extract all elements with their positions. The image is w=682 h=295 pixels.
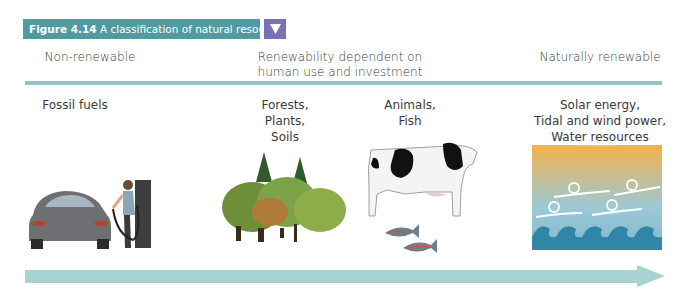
trees-illustration (222, 152, 347, 244)
category-non-renewable: Non-renewable (20, 50, 160, 65)
category-naturally-renewable: Naturally renewable (530, 50, 670, 65)
divider-line (25, 81, 662, 85)
cow-and-fish-illustration (365, 138, 483, 263)
sun-wind-waves-illustration (532, 145, 662, 250)
triangle-down-icon (270, 24, 281, 34)
car-refuelling-illustration (25, 175, 160, 255)
figure-number: Figure 4.14 (29, 23, 97, 35)
figure-dropdown-button[interactable] (264, 19, 286, 39)
renewability-arrow (25, 265, 665, 287)
example-forests: Forests, Plants, Soils (250, 97, 320, 145)
figure-caption: Figure 4.14 A classification of natural … (23, 19, 260, 39)
example-solar: Solar energy, Tidal and wind power, Wate… (530, 97, 670, 145)
figure-title: A classification of natural resources (100, 23, 287, 35)
example-animals: Animals, Fish (375, 97, 445, 129)
fish-illustration (385, 224, 437, 253)
category-dependent: Renewability dependent on human use and … (245, 50, 435, 80)
example-fossil-fuels: Fossil fuels (25, 97, 125, 113)
